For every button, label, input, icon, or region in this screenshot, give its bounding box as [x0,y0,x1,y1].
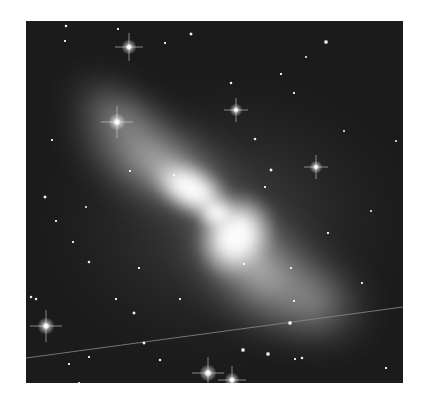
nebula-photograph [26,21,403,383]
star [173,174,176,177]
star [326,231,329,234]
star [55,220,58,223]
nebula-image [26,21,403,383]
star [179,298,182,301]
star [253,137,257,141]
star [43,195,47,199]
star [142,341,146,345]
star [114,297,117,300]
star [264,186,267,189]
star [324,40,329,45]
star [129,170,132,173]
star [137,266,140,269]
star [279,72,282,75]
star [241,348,246,353]
star [294,358,297,361]
star [132,311,136,315]
star [305,56,308,59]
star [370,210,373,213]
star [243,263,246,266]
star [384,366,387,369]
star [158,358,162,362]
star [29,295,33,299]
star [269,168,273,172]
star [85,206,88,209]
star [34,297,38,301]
star [164,42,167,45]
star [229,81,233,85]
star [290,267,293,270]
star [64,40,67,43]
star [72,241,75,244]
star [361,282,364,285]
star [300,356,304,360]
star [288,321,293,326]
star [343,130,346,133]
star [117,28,120,31]
star [189,32,193,36]
star [293,92,296,95]
star [87,260,91,264]
star [64,24,68,28]
star [293,300,296,303]
star [68,363,71,366]
star [395,140,398,143]
star [51,139,54,142]
star [88,356,91,359]
star [266,352,271,357]
